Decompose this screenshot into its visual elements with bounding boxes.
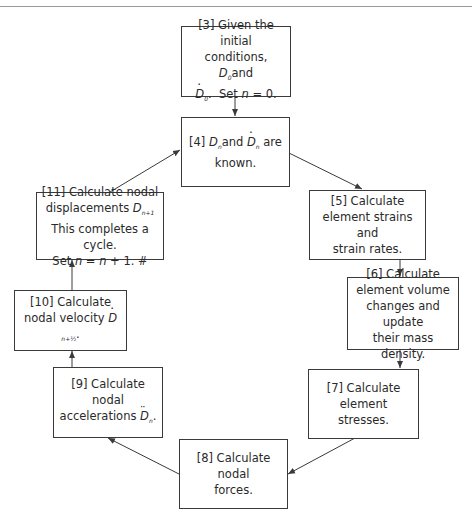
node-8-line-2: forces. bbox=[184, 482, 283, 498]
node-11-line-4: Set n = n + 1. # bbox=[41, 253, 159, 269]
node-10-line-1: [10] Calculate bbox=[19, 294, 122, 310]
node-6-line-4: their mass density. bbox=[352, 330, 454, 362]
node-6-line-1: [6] Calculate bbox=[352, 266, 454, 282]
node-5-strains: [5] Calculate element strains and strain… bbox=[309, 190, 426, 260]
node-5-line-2: element strains and bbox=[314, 209, 421, 241]
node-3-line-3: D0. Set n = 0. bbox=[186, 86, 286, 107]
node-4-line-2: known. bbox=[189, 155, 282, 171]
node-9-line-2: accelerations Dn. bbox=[58, 408, 158, 429]
edge-4-to-5 bbox=[289, 153, 362, 189]
node-3-line-1: [3] Given the initial bbox=[186, 17, 286, 49]
node-4-line-1: [4] Dnand Dn are bbox=[189, 134, 282, 155]
node-6-volume-density: [6] Calculate element volume changes and… bbox=[347, 277, 459, 350]
node-7-line-2: element stresses. bbox=[313, 396, 414, 428]
node-11-line-2: displacements Dn+1 bbox=[41, 200, 159, 221]
node-5-line-1: [5] Calculate bbox=[314, 193, 421, 209]
node-10-velocity: [10] Calculate nodal velocity Dn+½. bbox=[14, 290, 127, 351]
node-6-line-3: changes and update bbox=[352, 298, 454, 330]
node-8-line-1: [8] Calculate nodal bbox=[184, 450, 283, 482]
node-7-line-1: [7] Calculate bbox=[313, 380, 414, 396]
node-11-line-3: This completes a cycle. bbox=[41, 221, 159, 253]
node-11-line-1: [11] Calculate nodal bbox=[41, 184, 159, 200]
node-6-line-2: element volume bbox=[352, 282, 454, 298]
node-8-nodal-forces: [8] Calculate nodal forces. bbox=[179, 439, 288, 509]
node-4-known-state: [4] Dnand Dn are known. bbox=[181, 117, 290, 187]
node-5-line-3: strain rates. bbox=[314, 241, 421, 257]
node-3-initial-conditions: [3] Given the initial conditions, D0and … bbox=[181, 26, 291, 97]
node-10-line-2: nodal velocity Dn+½. bbox=[19, 310, 122, 347]
edge-7-to-8 bbox=[288, 438, 355, 474]
node-7-stresses: [7] Calculate element stresses. bbox=[308, 369, 419, 439]
edge-8-to-9 bbox=[108, 438, 179, 474]
node-9-accelerations: [9] Calculate nodal accelerations Dn. bbox=[53, 367, 163, 438]
node-11-displacements: [11] Calculate nodal displacements Dn+1 … bbox=[36, 192, 164, 260]
